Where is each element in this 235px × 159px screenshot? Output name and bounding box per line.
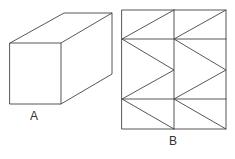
diagram-canvas [0, 0, 235, 159]
figure-b-label: B [169, 135, 177, 147]
figure-a-label: A [30, 110, 38, 122]
cuboid-front-face [10, 43, 61, 104]
cuboid-right-face [61, 13, 112, 104]
zigzag-right-column [174, 10, 226, 129]
cuboid-top-face [10, 13, 112, 43]
figure-a-cuboid [10, 13, 112, 104]
zigzag-left-column [122, 10, 174, 129]
figure-b-grid [122, 10, 226, 129]
